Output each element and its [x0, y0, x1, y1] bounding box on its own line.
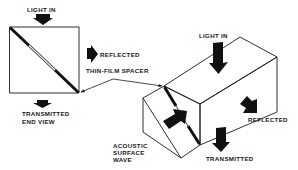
iso-transmitted-label: TRANSMITTED — [206, 155, 254, 162]
spacer-callout: THIN-FILM SPACER — [81, 67, 162, 92]
acoustic-label-line1: ACOUSTIC — [113, 142, 148, 149]
acoustic-label-line3: WAVE — [113, 156, 132, 163]
end-view-light-in-label: LIGHT IN — [27, 6, 56, 13]
end-view-transmitted-label: TRANSMITTED — [22, 110, 70, 117]
end-view-caption-label: END VIEW — [22, 118, 55, 125]
arrow-down-icon — [33, 14, 53, 25]
iso-reflected-label: REFLECTED — [248, 116, 288, 123]
acousto-optic-beam-splitter-diagram: LIGHT IN REFLECTED TRANSMITTED END VIEW … — [0, 0, 298, 170]
arrow-down-icon — [33, 100, 52, 108]
iso-splitter-upper — [165, 87, 177, 106]
iso-light-in-label: LIGHT IN — [199, 32, 228, 39]
acoustic-label-line2: SURFACE — [113, 149, 145, 156]
spacer-leader-to-end-view — [81, 79, 113, 92]
splitter-diagonal-upper — [10, 28, 29, 46]
arrow-up-right-icon — [163, 109, 187, 129]
thin-film-spacer-core — [29, 46, 55, 71]
spacer-callout-label: THIN-FILM SPACER — [86, 67, 149, 74]
box-side-face — [200, 57, 277, 145]
spacer-leader-to-isometric — [113, 79, 162, 86]
arrow-down-right-icon — [240, 96, 257, 113]
arrow-right-icon — [87, 45, 98, 63]
end-view: LIGHT IN REFLECTED TRANSMITTED END VIEW — [10, 6, 141, 125]
iso-splitter-lower — [188, 126, 200, 144]
arrow-down-icon — [212, 127, 230, 152]
end-view-reflected-label: REFLECTED — [100, 51, 140, 58]
prism-inner-edge — [143, 98, 181, 158]
splitter-diagonal-lower — [55, 70, 79, 93]
